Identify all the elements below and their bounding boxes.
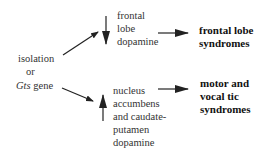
nucleus-line-3: and caudate-	[113, 110, 166, 123]
frontal-line-2: lobe	[117, 22, 135, 35]
frontal-line-1: frontal	[117, 9, 145, 22]
source-line-2: or	[26, 65, 35, 78]
frontal-outcome-line-1: frontal lobe	[199, 24, 254, 38]
tic-outcome-line-3: syndromes	[200, 103, 251, 117]
nucleus-line-5: dopamine	[113, 136, 154, 149]
source-line-3: Gts gene	[16, 79, 53, 92]
frontal-outcome-line-2: syndromes	[199, 37, 250, 51]
tic-outcome-line-1: motor and	[200, 77, 249, 91]
nucleus-line-2: accumbens	[113, 97, 160, 110]
source-line-1: isolation	[18, 52, 54, 65]
arrow-source-to-nucleus	[62, 88, 93, 101]
gene-name: Gts	[16, 80, 31, 91]
frontal-line-3: dopamine	[117, 35, 158, 48]
tic-outcome-line-2: vocal tic	[200, 90, 239, 104]
nucleus-line-1: nucleus	[113, 84, 145, 97]
nucleus-line-4: putamen	[113, 123, 149, 136]
gene-suffix: gene	[31, 80, 53, 91]
arrow-source-to-frontal	[63, 32, 98, 55]
